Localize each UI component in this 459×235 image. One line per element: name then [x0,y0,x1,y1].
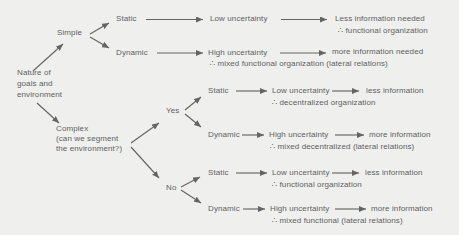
arrow-simple-to-static [90,23,109,34]
arrow-no-to-static [181,177,200,187]
branch2-outcome-label: less information [366,85,424,96]
branch5-conclusion-label: ∴ mixed functional (lateral relations) [272,215,403,226]
branch0-conclusion-label: ∴ functional organization [338,25,428,36]
bran4-uncertainty-label: Low uncertainty [272,167,330,178]
branch1-outcome-label: more information needed [332,46,423,57]
branch2-uncertainty-label: Low uncertainty [272,85,330,96]
root-node-label: Nature of goals and environment [17,67,62,100]
arrow-yes-to-dynamic [185,114,201,127]
branch3-condition-label: Dynamic [208,129,240,140]
arrow-no-to-dynamic [181,190,201,203]
branch3-uncertainty-label: High uncertainty [269,129,328,140]
branch0-outcome-label: Less information needed [335,13,425,24]
branch3-conclusion-label: ∴ mixed decentralized (lateral relations… [270,141,414,152]
branch5-condition-label: Dynamic [208,203,240,214]
arrow-complex-to-yes [131,123,159,143]
node-simple-label: Simple [57,27,82,38]
branch1-conclusion-label: ∴ mixed functional organization (lateral… [210,58,388,69]
branch2-conclusion-label: ∴ decentralized organization [272,97,376,108]
branch4-condition-label: Static [208,167,229,178]
branch4-conclusion-label: ∴ functional organization [272,179,362,190]
branch5-outcome-label: more information [371,203,433,214]
arrow-yes-to-static [185,97,201,110]
branch1-uncertainty-label: High uncertainty [208,47,267,58]
node-yes-label: Yes [166,105,179,116]
branch0-condition-label: Static [116,13,137,24]
branch0-uncertainty-label: Low uncertainty [210,13,268,24]
branch3-outcome-label: more information [369,129,431,140]
branch1-condition-label: Dynamic [116,47,148,58]
node-no-label: No [166,182,176,193]
branch4-outcome-label: less information [365,167,423,178]
arrow-simple-to-dynamic [90,37,109,48]
branch2-condition-label: Static [208,85,229,96]
arrow-complex-to-no [131,147,159,178]
node-complex-label: Complex (can we segment the environment?… [56,124,122,154]
arrow-root-to-complex [37,103,59,123]
diagram-canvas: Nature of goals and environment Simple C… [0,0,459,235]
branch5-uncertainty-label: High uncertainty [270,203,329,214]
